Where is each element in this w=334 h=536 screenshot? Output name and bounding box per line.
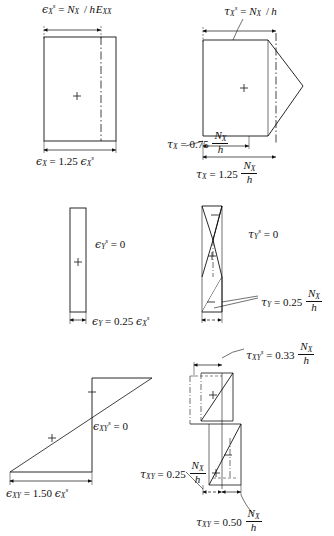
label-bottom-right-bottom: τXY = 0.50 NXh — [196, 508, 263, 533]
panel-middle-right-graphic — [202, 206, 258, 323]
label-top-right-mid: τX = 0.75 NXh — [167, 130, 229, 155]
label-top-left-title: ϵXs = NX / h EXX — [42, 3, 112, 16]
label-bottom-right-top: τXYs = 0.33 NXh — [246, 341, 315, 366]
label-bottom-left-bottom: ϵXY = 1.50 ϵXs — [6, 487, 68, 500]
label-bottom-right-left: τXY = 0.25 NXh — [140, 460, 207, 485]
panel-bottom-left-graphic — [10, 378, 152, 485]
label-middle-right-lower: τY = 0.25 NXh — [261, 288, 323, 313]
figure-canvas — [0, 0, 334, 536]
engineering-figure: ϵXs = NX / h EXX ϵX = 1.25 ϵXs τXs = NX … — [0, 0, 334, 536]
panel-top-left-graphic — [44, 26, 116, 153]
panel-bottom-right-graphic — [186, 349, 253, 513]
label-top-right-bottom: τX = 1.25 NXh — [196, 160, 258, 185]
label-middle-right-side: τYs = 0 — [248, 228, 278, 241]
label-middle-left-side: ϵYs = 0 — [95, 238, 125, 251]
label-top-left-bottom: ϵX = 1.25 ϵXs — [36, 155, 94, 168]
label-top-right-title: τXs = NX / h — [224, 5, 277, 18]
panel-middle-left-graphic — [70, 208, 86, 324]
label-middle-left-bottom: ϵY = 0.25 ϵXs — [92, 315, 150, 328]
label-bottom-left-side: ϵXYs = 0 — [93, 420, 128, 433]
